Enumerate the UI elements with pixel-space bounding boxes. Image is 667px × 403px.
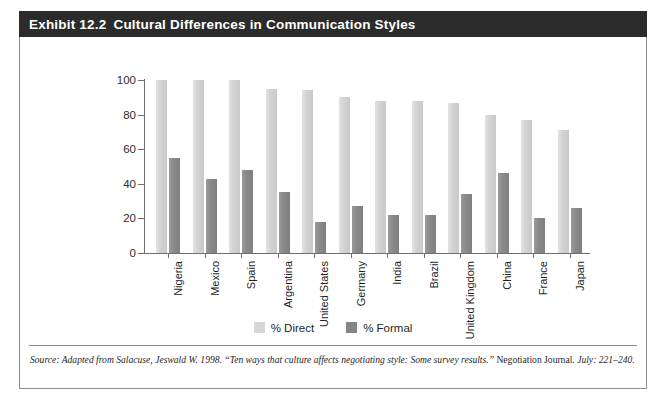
bar-direct [266, 89, 277, 253]
x-axis-label-mexico: Mexico [209, 261, 221, 296]
bar-direct [375, 101, 386, 253]
y-axis-tick-label-0: 0 [96, 247, 136, 259]
chart-legend: % Direct% Formal [20, 318, 646, 336]
bar-direct [339, 97, 350, 253]
source-journal: Negotiation Journal. [496, 354, 574, 365]
bar-direct [521, 120, 532, 253]
legend-swatch-direct [254, 322, 265, 333]
y-axis-tick-0 [138, 253, 145, 254]
bar-formal [352, 206, 363, 253]
bar-formal [388, 215, 399, 253]
x-axis-tick [570, 254, 571, 258]
x-axis-tick [424, 254, 425, 258]
x-axis-label-nigeria: Nigeria [172, 261, 184, 296]
bar-chart: 020406080100 NigeriaMexicoSpainArgentina… [20, 37, 646, 345]
bar-formal [315, 222, 326, 253]
x-axis-tick [387, 254, 388, 258]
y-axis-labels: 020406080100 [92, 37, 136, 345]
bar-direct [412, 101, 423, 253]
y-axis-tick-40 [138, 184, 145, 185]
source-divider [29, 345, 637, 346]
x-axis-tick [314, 254, 315, 258]
bar-direct [448, 103, 459, 254]
bar-formal [498, 173, 509, 253]
legend-swatch-formal [346, 322, 357, 333]
source-note: Source: Adapted from Salacuse, Jeswald W… [30, 353, 636, 367]
bar-direct [229, 80, 240, 253]
bar-formal [534, 218, 545, 253]
y-axis-tick-label-60: 60 [96, 143, 136, 155]
y-axis-tick-100 [138, 80, 145, 81]
x-axis-tick [460, 254, 461, 258]
bar-formal [206, 179, 217, 253]
x-axis-label-germany: Germany [355, 261, 367, 306]
bar-formal [169, 158, 180, 253]
bar-formal [461, 194, 472, 253]
x-axis-label-argentina: Argentina [282, 261, 294, 308]
x-axis-label-brazil: Brazil [428, 261, 440, 289]
y-axis-tick-label-100: 100 [96, 74, 136, 86]
exhibit-title: Exhibit 12.2Cultural Differences in Comm… [29, 17, 416, 32]
exhibit-figure: Exhibit 12.2Cultural Differences in Comm… [19, 11, 647, 389]
exhibit-header-bar: Exhibit 12.2Cultural Differences in Comm… [19, 11, 647, 37]
exhibit-number: Exhibit 12.2 [29, 17, 106, 32]
bar-direct [558, 130, 569, 253]
bar-formal [571, 208, 582, 253]
legend-label: % Direct [271, 322, 314, 334]
bar-direct [485, 115, 496, 253]
x-axis-label-china: China [501, 261, 513, 290]
y-axis-tick-label-80: 80 [96, 109, 136, 121]
bar-formal [425, 215, 436, 253]
x-axis-tick [278, 254, 279, 258]
x-axis-tick [351, 254, 352, 258]
y-axis-tick-60 [138, 149, 145, 150]
y-axis-tick-80 [138, 115, 145, 116]
y-axis-line [144, 79, 145, 254]
bar-formal [279, 192, 290, 253]
legend-label: % Formal [363, 322, 412, 334]
x-axis-tick [533, 254, 534, 258]
legend-item-direct: % Direct [254, 322, 314, 334]
x-axis-line [144, 253, 590, 254]
x-axis-tick [241, 254, 242, 258]
source-tail: July: 221–240. [575, 354, 635, 365]
bar-direct [302, 90, 313, 253]
x-axis-tick [205, 254, 206, 258]
x-axis-tick [497, 254, 498, 258]
exhibit-body: 020406080100 NigeriaMexicoSpainArgentina… [19, 37, 647, 389]
x-axis-tick [168, 254, 169, 258]
source-lead: Source: Adapted from Salacuse, Jeswald W… [30, 354, 496, 365]
y-axis-tick-label-20: 20 [96, 212, 136, 224]
x-axis-label-japan: Japan [574, 261, 586, 291]
x-axis-label-india: India [391, 261, 403, 285]
bar-formal [242, 170, 253, 253]
y-axis-tick-label-40: 40 [96, 178, 136, 190]
bar-direct [193, 80, 204, 253]
exhibit-title-text: Cultural Differences in Communication St… [113, 17, 415, 32]
x-axis-label-france: France [537, 261, 549, 295]
bar-direct [156, 80, 167, 253]
x-axis-label-spain: Spain [245, 261, 257, 289]
y-axis-tick-20 [138, 218, 145, 219]
legend-item-formal: % Formal [346, 322, 412, 334]
